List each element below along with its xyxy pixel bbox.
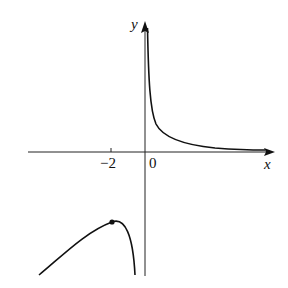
tick-label-neg2: −2 [100, 156, 116, 171]
y-axis-label: y [131, 17, 138, 32]
x-axis-label: x [264, 157, 271, 172]
curve-left-branch [39, 221, 135, 275]
local-max-point [109, 219, 114, 224]
function-graph: y x −2 0 [0, 0, 288, 288]
curve-right-branch [148, 28, 266, 150]
origin-label: 0 [149, 156, 157, 171]
graph-canvas [0, 0, 288, 288]
